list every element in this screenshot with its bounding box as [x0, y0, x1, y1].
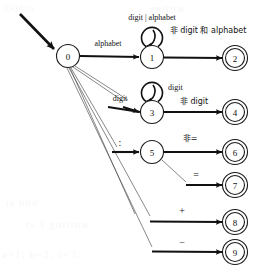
edge-label-1-to-2: 非 digit 和 alphabet: [170, 25, 247, 35]
fsm-diagram-page: dsjoin gnitirw is bnu ts 1 gnitinw a=1; …: [0, 0, 265, 276]
state-3-label: 3: [150, 108, 155, 118]
state-1-label: 1: [150, 53, 155, 63]
state-node-4[interactable]: 4: [223, 100, 248, 125]
state-node-7[interactable]: 7: [223, 173, 248, 198]
edge-label-0-to-8: +: [179, 205, 185, 216]
state-node-5[interactable]: 5: [141, 141, 164, 164]
edge-label-3-to-4: 非 digit: [180, 96, 208, 106]
state-8-label: 8: [233, 218, 238, 228]
state-0-label: 0: [66, 52, 71, 62]
state-9-label: 9: [233, 248, 238, 258]
edge-label-0-to-5: :: [119, 137, 122, 148]
edge-label-self-loop-1: digit | alphabet: [128, 13, 176, 22]
state-node-3[interactable]: 3: [141, 101, 164, 124]
state-node-8[interactable]: 8: [223, 210, 248, 235]
state-5-label: 5: [150, 148, 155, 158]
edge-label-self-loop-3: digit: [168, 83, 183, 92]
state-node-6[interactable]: 6: [223, 140, 248, 165]
fanout-line-extra-b: [70, 68, 135, 214]
state-node-0[interactable]: 0: [57, 45, 80, 68]
state-machine-canvas: 0 1 2 3 4 5: [0, 0, 265, 276]
edge-label-0-to-1: alphabet: [94, 39, 122, 48]
edge-label-5-to-7: =: [193, 169, 199, 180]
state-node-1[interactable]: 1: [141, 46, 164, 69]
state-2-label: 2: [233, 54, 238, 64]
state-7-label: 7: [233, 181, 238, 191]
edge-0-to-9: [152, 252, 222, 253]
edge-label-0-to-3: digit: [113, 94, 128, 103]
state-node-2[interactable]: 2: [223, 46, 248, 71]
edge-label-5-to-6: 非=: [183, 133, 198, 143]
self-loop-arrow-state-3: [147, 85, 155, 101]
state-4-label: 4: [233, 108, 238, 118]
edge-0-to-1: [80, 56, 139, 57]
state-6-label: 6: [233, 148, 238, 158]
start-arrow: [20, 14, 54, 49]
fanout-line-to-8: [69, 68, 150, 216]
edge-0-to-8: [150, 222, 222, 223]
edge-label-0-to-9: −: [179, 237, 185, 248]
state-node-9[interactable]: 9: [223, 240, 248, 265]
self-loop-arrow-state-1: [147, 30, 155, 46]
edge-1-to-2: [164, 58, 222, 59]
edge-5-to-7-stem: [162, 160, 186, 182]
